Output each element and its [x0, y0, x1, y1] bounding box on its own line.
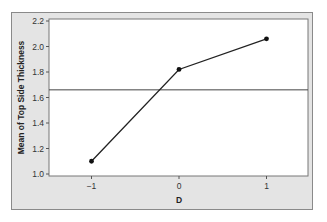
data-point — [264, 36, 269, 41]
y-tick-label: 1.2 — [32, 144, 44, 154]
y-tick-label: 2.0 — [32, 42, 44, 52]
x-tick-label: 0 — [177, 181, 182, 191]
data-point — [177, 67, 182, 72]
x-axis-title: D — [176, 195, 182, 205]
data-point — [89, 159, 94, 164]
y-tick-label: 1.4 — [32, 118, 44, 128]
y-axis-title: Mean of Top Side Thickness — [16, 40, 26, 154]
y-axis: 1.01.21.41.61.82.02.2 — [32, 16, 49, 179]
y-tick-label: 1.0 — [32, 169, 44, 179]
main-effects-plot: 1.01.21.41.61.82.02.2−101DMean of Top Si… — [0, 0, 327, 222]
plot-area — [49, 19, 308, 176]
x-tick-label: −1 — [87, 181, 97, 191]
y-tick-label: 1.8 — [32, 67, 44, 77]
y-tick-label: 2.2 — [32, 16, 44, 26]
x-axis: −101 — [87, 176, 269, 191]
y-tick-label: 1.6 — [32, 93, 44, 103]
x-tick-label: 1 — [264, 181, 269, 191]
